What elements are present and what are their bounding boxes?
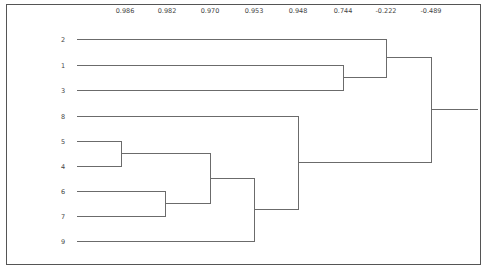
dendrogram-tree: [0, 0, 485, 272]
